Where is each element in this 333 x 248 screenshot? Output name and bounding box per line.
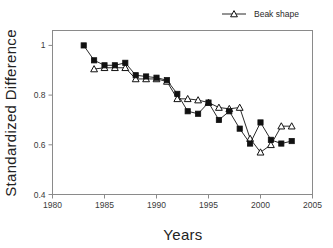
x-tick-label: 2005 <box>303 200 322 210</box>
data-point-filled-square <box>206 100 211 105</box>
y-axis-title: Standardized Difference <box>2 29 19 197</box>
data-point-filled-square <box>279 141 284 146</box>
data-point-filled-square <box>216 117 221 122</box>
data-point-filled-square <box>144 74 149 79</box>
series-line <box>94 68 292 152</box>
chart-figure: 198019851990199520002005 0.40.60.81 Beak… <box>0 0 333 248</box>
data-point-open-triangle <box>216 104 223 110</box>
data-point-filled-square <box>92 58 97 63</box>
data-point-filled-square <box>196 111 201 116</box>
data-series-1 <box>91 64 295 155</box>
data-point-filled-square <box>133 73 138 78</box>
plot-frame <box>53 31 313 195</box>
data-point-filled-square <box>268 137 273 142</box>
y-axis-ticks <box>49 45 53 194</box>
y-tick-label: 0.4 <box>34 190 46 200</box>
data-point-filled-square <box>154 75 159 80</box>
series-group <box>81 43 295 155</box>
x-axis-title: Years <box>163 226 202 243</box>
data-point-filled-square <box>289 138 294 143</box>
y-tick-labels: 0.40.60.81 <box>34 40 46 199</box>
x-tick-label: 1990 <box>147 200 166 210</box>
x-tick-labels: 198019851990199520002005 <box>43 200 322 210</box>
x-tick-label: 1980 <box>43 200 62 210</box>
data-point-filled-square <box>112 63 117 68</box>
data-point-open-triangle <box>236 104 243 110</box>
x-tick-label: 1985 <box>95 200 114 210</box>
standardized-difference-line-chart: 198019851990199520002005 0.40.60.81 Beak… <box>0 0 333 248</box>
y-tick-label: 0.8 <box>34 90 46 100</box>
legend-label: Beak shape <box>254 9 299 19</box>
y-tick-label: 1 <box>41 40 46 50</box>
x-axis-ticks <box>53 195 313 199</box>
x-tick-label: 2000 <box>251 200 270 210</box>
data-point-filled-square <box>258 120 263 125</box>
chart-legend: Beak shape <box>222 9 299 19</box>
data-point-filled-square <box>123 60 128 65</box>
data-point-filled-square <box>164 78 169 83</box>
data-point-filled-square <box>102 63 107 68</box>
data-point-filled-square <box>175 91 180 96</box>
data-point-filled-square <box>185 109 190 114</box>
data-point-filled-square <box>227 109 232 114</box>
x-tick-label: 1995 <box>199 200 218 210</box>
data-point-filled-square <box>81 43 86 48</box>
data-point-filled-square <box>237 126 242 131</box>
y-tick-label: 0.6 <box>34 140 46 150</box>
data-point-filled-square <box>248 141 253 146</box>
